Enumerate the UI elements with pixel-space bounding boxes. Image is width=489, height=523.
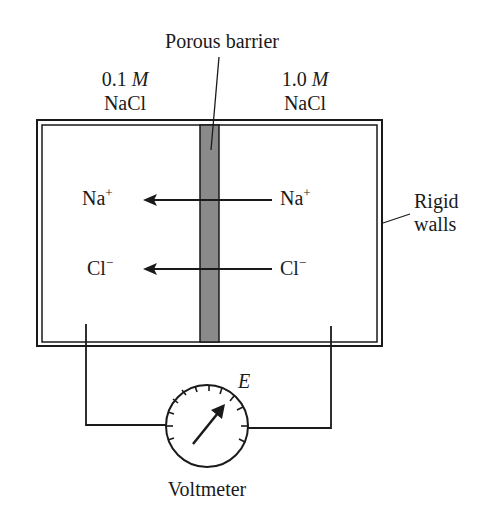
left-electrode-wire (86, 324, 166, 425)
right-conc-value: 1.0 (282, 68, 307, 90)
walls-leader-line (383, 214, 410, 223)
emf-label: E (238, 370, 250, 392)
ion-label-na-left: Na+ (82, 187, 113, 209)
barrier-label: Porous barrier (142, 30, 302, 52)
right-conc-unit: M (312, 68, 329, 90)
porous-barrier (200, 125, 219, 342)
ion-label-cl-right: Cl− (280, 257, 306, 279)
right-concentration-label: 1.0 M (250, 68, 360, 90)
walls-label-line2: walls (414, 213, 456, 235)
walls-label-line1: Rigid (414, 190, 458, 212)
ion-label-na-right: Na+ (280, 187, 311, 209)
left-conc-value: 0.1 (102, 68, 127, 90)
right-solute-label: NaCl (250, 92, 360, 114)
voltmeter-label: Voltmeter (140, 478, 274, 500)
voltmeter-icon (166, 385, 248, 467)
ion-label-cl-left: Cl− (87, 257, 113, 279)
left-solute-label: NaCl (70, 92, 180, 114)
left-conc-unit: M (132, 68, 149, 90)
left-concentration-label: 0.1 M (70, 68, 180, 90)
